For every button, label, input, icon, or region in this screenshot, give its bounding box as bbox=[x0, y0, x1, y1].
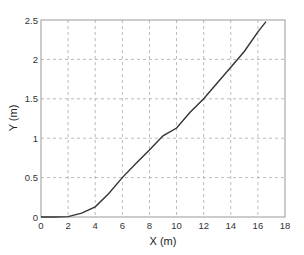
plot-frame bbox=[41, 20, 285, 217]
y-tick: 0.5 bbox=[25, 172, 38, 183]
x-tick: 0 bbox=[38, 220, 43, 231]
x-tick: 6 bbox=[120, 220, 125, 231]
y-tick-labels: 00.511.522.5 bbox=[25, 15, 38, 223]
x-tick: 8 bbox=[147, 220, 152, 231]
trajectory-line bbox=[41, 22, 266, 217]
x-tick: 18 bbox=[280, 220, 291, 231]
x-tick-labels: 024681012141618 bbox=[38, 220, 290, 231]
y-axis-label: Y (m) bbox=[7, 105, 19, 132]
y-tick: 0 bbox=[33, 212, 38, 223]
y-tick: 2 bbox=[33, 54, 38, 65]
line-chart: 024681012141618 00.511.522.5 X (m) Y (m) bbox=[0, 0, 304, 255]
x-tick: 14 bbox=[225, 220, 236, 231]
x-tick: 2 bbox=[65, 220, 70, 231]
x-tick: 4 bbox=[93, 220, 98, 231]
y-tick: 1 bbox=[33, 133, 38, 144]
y-tick: 1.5 bbox=[25, 93, 38, 104]
y-tick: 2.5 bbox=[25, 15, 38, 26]
x-tick: 10 bbox=[171, 220, 182, 231]
x-tick: 16 bbox=[253, 220, 264, 231]
grid-lines bbox=[41, 20, 285, 217]
x-tick: 12 bbox=[198, 220, 209, 231]
x-axis-label: X (m) bbox=[150, 235, 177, 247]
